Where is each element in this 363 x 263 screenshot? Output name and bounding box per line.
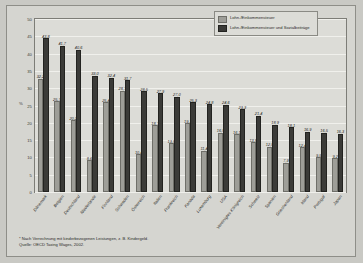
y-axis-tick-label: 15 — [27, 138, 32, 143]
bar: 21,4 — [256, 116, 261, 192]
bar-group: 13,527,0 — [169, 19, 180, 192]
bar-value-label: 33,0 — [91, 71, 99, 76]
bar: 33,0 — [92, 76, 97, 192]
bar-value-label: 24,8 — [206, 100, 214, 105]
bar-value-label: 32,4 — [108, 73, 116, 78]
x-axis-tick-label: Italien — [152, 194, 163, 206]
bar: 43,8 — [43, 38, 48, 192]
bar: 23,3 — [240, 109, 245, 192]
bar-value-label: 21,4 — [255, 111, 263, 116]
x-axis-tick-label: Luxemburg — [195, 194, 212, 214]
bar-group: 9,216,3 — [332, 19, 343, 192]
plot-area: 05101520253035404550 32,243,825,741,720,… — [34, 18, 347, 193]
bar: 25,3 — [190, 102, 195, 192]
bar-group: 25,432,4 — [103, 19, 114, 192]
bar-group: 19,325,3 — [185, 19, 196, 192]
y-axis-tick-label: 25 — [27, 103, 32, 108]
bar-value-label: 23,3 — [238, 105, 246, 110]
y-axis-tick-label: 30 — [27, 86, 32, 91]
x-axis-tick-label: Österreich — [130, 194, 146, 212]
y-axis-tick-label: 10 — [27, 155, 32, 160]
bar-group: 25,741,7 — [54, 19, 65, 192]
bar: 28,5 — [141, 91, 146, 192]
legend-item-tax-social: Lohn-/Einkommensteuer und Sozialbeiträge — [218, 25, 314, 33]
y-axis-tick-label: 40 — [27, 51, 32, 56]
y-axis-label: % — [19, 102, 23, 107]
bar-value-label: 28,5 — [140, 87, 148, 92]
bar-value-label: 40,6 — [75, 45, 83, 50]
bar: 16,9 — [305, 132, 310, 192]
bar-group: 9,516,5 — [316, 19, 327, 192]
bar-value-label: 16,9 — [304, 127, 312, 132]
bar: 18,9 — [272, 125, 277, 192]
x-axis-tick-label: Schweiz — [247, 194, 261, 209]
legend-item-tax: Lohn-/Einkommensteuer — [218, 15, 314, 23]
bar: 31,7 — [125, 80, 130, 192]
bar-value-label: 43,8 — [42, 34, 50, 39]
bar: 16,3 — [338, 134, 343, 192]
y-axis-tick-label: 35 — [27, 68, 32, 73]
bar: 24,6 — [223, 105, 228, 192]
legend-label-tax-social: Lohn-/Einkommensteuer und Sozialbeiträge — [230, 25, 310, 30]
bar-value-label: 18,9 — [271, 120, 279, 125]
x-axis-tick-label: Niederlande — [79, 194, 97, 215]
x-axis-tick-label: USA — [219, 194, 228, 204]
bar-group: 12,518,9 — [267, 19, 278, 192]
bar-group: 18,727,9 — [152, 19, 163, 192]
x-axis-tick-label: Dänemark — [32, 194, 48, 212]
bar: 27,0 — [174, 97, 179, 192]
bar-value-label: 25,3 — [189, 98, 197, 103]
bar-group: 20,240,6 — [71, 19, 82, 192]
bar-value-label: 16,3 — [337, 129, 345, 134]
x-axis-tick-label: Japan — [332, 194, 343, 206]
legend-swatch-tax-social-icon — [218, 25, 227, 32]
bar-value-label: 18,1 — [288, 123, 296, 128]
y-axis-tick-label: 45 — [27, 34, 32, 39]
y-axis-tick-label: 50 — [27, 17, 32, 22]
bar: 24,8 — [207, 104, 212, 192]
footnote-source: Quelle: OECD Taxing Wages, 2002. — [19, 242, 148, 248]
bar: 32,4 — [109, 78, 114, 192]
x-axis-tick-label: Frankreich — [163, 194, 179, 213]
bar-group: 32,243,8 — [38, 19, 49, 192]
x-axis-tick-label: Irland — [300, 194, 310, 205]
bar: 41,7 — [60, 46, 65, 192]
bar-group: 7,918,1 — [283, 19, 294, 192]
bar-group: 28,731,7 — [120, 19, 131, 192]
bar-group: 16,123,3 — [234, 19, 245, 192]
x-axis-tick-label: Belgien — [52, 194, 65, 208]
x-axis-tick-label: Griechenland — [274, 194, 293, 217]
y-axis-tick-label: 5 — [30, 172, 32, 177]
x-axis-tick-label: Portugal — [313, 194, 327, 209]
bar-value-label: 27,0 — [173, 92, 181, 97]
x-axis-tick-label: Spanien — [264, 194, 277, 209]
bar-value-label: 31,7 — [124, 76, 132, 81]
bar-group: 12,416,9 — [300, 19, 311, 192]
x-axis-tick-label: Kanada — [183, 194, 196, 208]
footnotes: * Nach Verrechnung mit kinderbezogenen L… — [19, 236, 148, 248]
chart-figure: % 05101520253035404550 32,243,825,741,72… — [6, 5, 356, 257]
x-axis-tick-label: Finnland — [100, 194, 114, 210]
y-axis-tick-label: 20 — [27, 120, 32, 125]
bar-groups: 32,243,825,741,720,240,68,633,025,432,42… — [35, 19, 346, 192]
gridline — [35, 192, 346, 193]
bar-value-label: 24,6 — [222, 100, 230, 105]
bar-value-label: 41,7 — [58, 41, 66, 46]
bar: 40,6 — [76, 50, 81, 192]
bar: 27,9 — [158, 93, 163, 192]
legend-swatch-tax-icon — [218, 16, 227, 23]
legend-label-tax: Lohn-/Einkommensteuer — [230, 15, 275, 20]
chart-legend: Lohn-/Einkommensteuer Lohn-/Einkommenste… — [214, 11, 318, 36]
bar-value-label: 16,5 — [320, 128, 328, 133]
x-axis-tick-label: Schweden — [114, 194, 130, 212]
bar: 16,5 — [321, 133, 326, 192]
bar-group: 11,424,8 — [201, 19, 212, 192]
y-axis-tick-label: 0 — [30, 190, 32, 195]
x-axis-tick-label: Deutschland — [63, 194, 81, 215]
bar-group: 13,821,4 — [251, 19, 262, 192]
bar-group: 8,633,0 — [87, 19, 98, 192]
bar: 18,1 — [289, 127, 294, 192]
bar-value-label: 27,9 — [157, 89, 165, 94]
bar-group: 10,428,5 — [136, 19, 147, 192]
y-axis-label-text: % — [19, 101, 23, 106]
